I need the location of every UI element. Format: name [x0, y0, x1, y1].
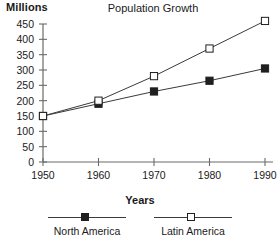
filled-square-icon: [81, 213, 89, 221]
x-tick-label: 1990: [242, 170, 280, 181]
y-tick-label: 250: [4, 80, 34, 90]
x-tick-label: 1950: [20, 170, 66, 181]
plot-svg: [0, 0, 280, 175]
x-tick-label: 1970: [131, 170, 177, 181]
open-square-icon: [187, 213, 195, 221]
series-latin-america: [39, 17, 268, 119]
legend-swatch: [154, 211, 232, 223]
x-tick-label: 1960: [76, 170, 122, 181]
legend-label: North America: [54, 225, 121, 237]
chart-legend: North AmericaLatin America: [0, 211, 280, 237]
legend-item[interactable]: Latin America: [147, 211, 239, 237]
y-tick-label: 200: [4, 96, 34, 106]
population-growth-chart: Millions Population Growth 0501001502002…: [0, 0, 280, 246]
y-tick-label: 350: [4, 50, 34, 60]
y-tick-label: 450: [4, 19, 34, 29]
x-tick-label: 1980: [187, 170, 233, 181]
y-tick-label: 400: [4, 34, 34, 44]
legend-label: Latin America: [161, 225, 225, 237]
y-tick-label: 50: [4, 142, 34, 152]
legend-item[interactable]: North America: [41, 211, 133, 237]
legend-swatch: [48, 211, 126, 223]
y-tick-label: 0: [4, 157, 34, 167]
plot-area: 050100150200250300350400450 195019601970…: [0, 0, 280, 175]
y-tick-label: 100: [4, 126, 34, 136]
x-axis-title: Years: [0, 194, 280, 207]
y-tick-label: 150: [4, 111, 34, 121]
y-tick-label: 300: [4, 65, 34, 75]
